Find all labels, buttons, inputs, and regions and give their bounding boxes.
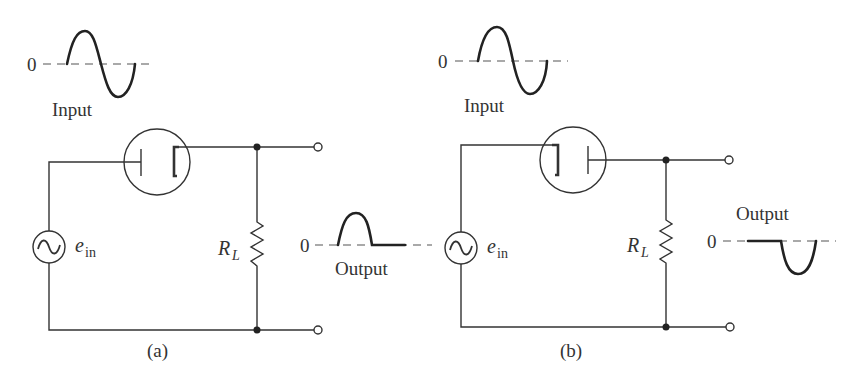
half-wave-rectifier-figure: 0 Input e in R L: [0, 0, 859, 375]
junction-bottom-a: [254, 327, 261, 334]
input-waveform-b: 0 Input: [438, 27, 568, 116]
junction-top-a: [254, 144, 261, 151]
output-terminal-bottom-a: [314, 326, 322, 334]
ac-source-a: e in: [33, 231, 96, 263]
wire-source-to-plate-a: [49, 162, 141, 231]
input-label-a: Input: [52, 99, 93, 120]
panel-a: 0 Input e in R L: [27, 31, 432, 362]
input-zero-label-a: 0: [27, 54, 37, 75]
caption-a: (a): [147, 340, 168, 362]
wire-ground-b: [461, 264, 726, 327]
output-half-wave-a: [338, 213, 405, 245]
output-terminal-top-a: [314, 143, 322, 151]
junction-bottom-b: [663, 324, 670, 331]
source-subscript-a: in: [85, 245, 96, 260]
output-zero-label-b: 0: [707, 231, 717, 252]
input-waveform-a: 0 Input: [27, 31, 155, 120]
output-waveform-b: Output 0: [707, 203, 836, 274]
resistor-zigzag-a: [251, 147, 263, 330]
panel-b: 0 Input e in R L: [438, 27, 836, 362]
input-label-b: Input: [464, 95, 505, 116]
output-label-a: Output: [335, 258, 389, 279]
output-label-b: Output: [736, 203, 790, 224]
source-subscript-b: in: [497, 246, 508, 261]
wire-ground-a: [49, 263, 317, 330]
output-half-wave-b: [748, 241, 816, 274]
resistor-label-b: R: [626, 234, 639, 256]
ac-source-b: e in: [445, 232, 508, 264]
load-resistor-b: R L: [626, 160, 672, 327]
output-zero-label-a: 0: [300, 235, 310, 256]
caption-b: (b): [560, 340, 582, 362]
sine-icon-a: [38, 240, 60, 253]
output-terminal-top-b: [725, 156, 733, 164]
resistor-subscript-b: L: [640, 245, 649, 260]
resistor-zigzag-b: [660, 160, 672, 327]
sine-icon-b: [450, 241, 472, 254]
diode-cathode-a: [174, 147, 179, 176]
input-zero-label-b: 0: [438, 51, 448, 72]
load-resistor-a: R L: [217, 147, 263, 330]
source-label-b: e: [487, 235, 496, 257]
source-label-a: e: [75, 234, 84, 256]
output-terminal-bottom-b: [726, 323, 734, 331]
resistor-subscript-a: L: [231, 248, 240, 263]
junction-top-b: [663, 157, 670, 164]
diode-cathode-b: [552, 145, 558, 175]
resistor-label-a: R: [217, 237, 230, 259]
output-waveform-a: 0 Output: [300, 213, 432, 279]
wire-source-to-cathode-b: [461, 145, 558, 232]
